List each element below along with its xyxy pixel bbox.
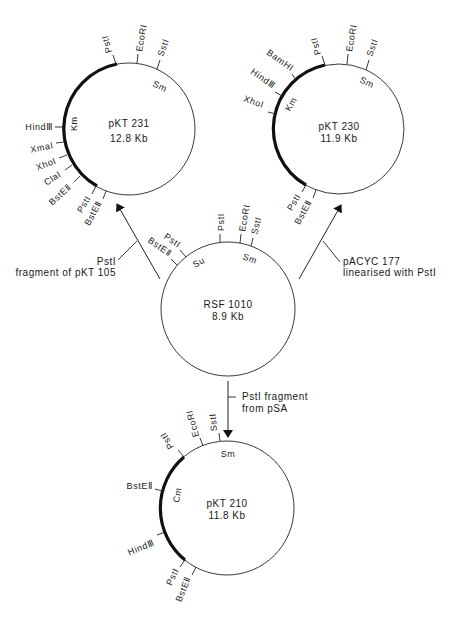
pkt210-gene-cm: Cm: [171, 487, 183, 504]
pkt210-site-psti-bottom: PstI: [164, 567, 181, 587]
pkt210-size: 11.8 Kb: [208, 510, 245, 521]
arrow-down-psa: PstI fragment from pSA: [228, 381, 308, 437]
rsf1010-site-psti-top: PstI: [216, 213, 226, 231]
rsf1010-gene-su: Su: [191, 255, 207, 270]
arrow-right-label-1: pACYC 177: [343, 256, 400, 267]
plasmid-pkt231: pKT 231 12.8 Kb Sm Km PstI EcoRI SstI Hi…: [25, 24, 195, 228]
pkt231-site-hindiii: HindⅢ: [25, 122, 53, 132]
pkt210-site-bsteii-top: BstEⅡ: [127, 481, 153, 491]
rsf1010-name: RSF 1010: [203, 299, 252, 310]
pkt210-site-ecori: EcoRI: [184, 409, 201, 438]
pkt231-site-xhoi: XhoI: [35, 156, 58, 173]
pkt231-gene-sm: Sm: [151, 79, 169, 94]
pkt231-site-bsteii-a: BstEⅡ: [47, 182, 73, 207]
plasmid-pkt230: pKT 230 11.9 Kb Sm Km BamHI HindⅢ XhoI P…: [242, 24, 404, 227]
pkt210-site-hindiii: HindⅢ: [126, 538, 155, 558]
pkt230-site-bamhi: BamHI: [265, 47, 296, 73]
pkt210-cm-segment: [160, 457, 185, 560]
pkt230-site-xhoi: XhoI: [242, 93, 265, 110]
plasmid-rsf1010: RSF 1010 8.9 Kb Su Sm PstI BstEⅡ PstI Ec…: [146, 204, 295, 376]
rsf1010-site-ecori: EcoRI: [237, 204, 252, 233]
pkt231-size: 12.8 Kb: [110, 133, 148, 144]
pkt231-site-clai: ClaI: [42, 169, 63, 187]
pkt230-site-psti-top: PstI: [309, 36, 323, 56]
pkt230-site-ecori: EcoRI: [344, 24, 359, 53]
arrow-down-label-2: from pSA: [242, 403, 288, 414]
pkt210-site-psti-top: PstI: [158, 430, 176, 451]
pkt210-name: pKT 210: [206, 498, 247, 509]
pkt230-gene-km: Km: [283, 95, 299, 113]
pkt230-name: pKT 230: [318, 121, 359, 132]
pkt230-site-ssti: SstI: [364, 37, 380, 57]
pkt231-gene-km: Km: [69, 116, 79, 131]
pkt231-name: pKT 231: [108, 118, 149, 129]
pkt230-site-hindiii: HindⅢ: [249, 66, 277, 90]
arrow-left-label-2: fragment of pKT 105: [16, 267, 116, 278]
pkt231-site-ssti: SstI: [155, 37, 171, 57]
arrow-right-leader: [323, 241, 340, 262]
plasmid-pkt210: pKT 210 11.8 Kb Sm Cm PstI EcoRI SstI Bs…: [126, 409, 294, 603]
pkt230-size: 11.9 Kb: [320, 133, 357, 144]
pkt230-gene-sm: Sm: [358, 75, 376, 90]
rsf1010-size: 8.9 Kb: [212, 311, 244, 322]
pkt231-site-ecori: EcoRI: [134, 24, 149, 53]
arrow-left-label-1: PstI: [97, 256, 116, 267]
arrow-left-leader: [118, 241, 137, 260]
pkt210-gene-sm: Sm: [221, 449, 236, 459]
pkt210-site-ssti: SstI: [207, 413, 219, 432]
rsf1010-site-ssti: SstI: [249, 216, 263, 236]
arrow-right-label-2: linearised with PstI: [343, 267, 436, 278]
pkt231-site-psti-top: PstI: [100, 34, 114, 54]
plasmid-construction-diagram: pKT 231 12.8 Kb Sm Km PstI EcoRI SstI Hi…: [0, 0, 462, 624]
arrow-down-label-1: PstI fragment: [242, 391, 308, 402]
rsf1010-gene-sm: Sm: [241, 251, 258, 265]
arrow-right-pacyc177: pACYC 177 linearised with PstI: [299, 205, 436, 279]
pkt231-site-xmai: XmaI: [29, 140, 54, 155]
pkt230-km-segment: [273, 65, 325, 185]
